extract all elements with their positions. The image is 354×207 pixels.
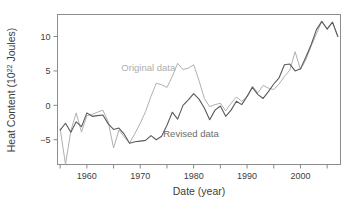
y-tick-label: 0: [45, 101, 50, 111]
series-annotations: Original dataRevised data: [121, 62, 219, 139]
annotation-revised-data: Revised data: [163, 128, 219, 139]
x-tick-label: 1990: [237, 171, 257, 181]
heat-content-line-chart: −50510 19601970198019902000 Original dat…: [0, 0, 354, 207]
y-tick-label: −5: [40, 135, 50, 145]
x-tick-label: 2000: [290, 171, 310, 181]
x-tick-label: 1980: [184, 171, 204, 181]
x-axis-title: Date (year): [173, 185, 226, 197]
y-axis-ticks: −50510: [40, 32, 57, 145]
plot-panel-border: [58, 15, 341, 165]
y-axis-title-main: Heat Content (10: [5, 72, 17, 152]
annotation-original-data: Original data: [121, 62, 176, 73]
y-axis-title: Heat Content (1022 Joules): [5, 28, 17, 153]
series-line-original-data: [60, 21, 338, 164]
y-axis-title-exponent: 22: [6, 64, 13, 72]
y-axis-title-tail: Joules): [5, 28, 17, 65]
x-tick-label: 1970: [130, 171, 150, 181]
y-tick-label: 5: [45, 66, 50, 76]
svg-text:Heat Content (1022 Joules): Heat Content (1022 Joules): [5, 28, 17, 153]
y-tick-label: 10: [40, 32, 50, 42]
data-series-layer: [60, 21, 338, 164]
chart-figure: −50510 19601970198019902000 Original dat…: [0, 0, 354, 207]
x-axis-ticks: 19601970198019902000: [60, 165, 327, 181]
x-tick-label: 1960: [77, 171, 97, 181]
